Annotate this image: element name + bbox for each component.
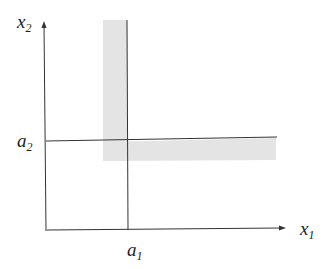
y-axis [44,25,46,231]
a1-label: a1 [127,240,143,262]
horizontal-shaded-band [103,138,276,161]
y-axis-label: x2 [17,12,31,34]
y-axis-arrowhead-icon [42,21,47,28]
diagram-canvas [0,0,331,269]
a1-vertical-line [127,20,128,230]
x-axis-label: x1 [300,219,314,241]
x-axis-arrowhead-icon [279,226,286,231]
a2-label: a2 [17,131,33,153]
x-axis [47,228,281,230]
